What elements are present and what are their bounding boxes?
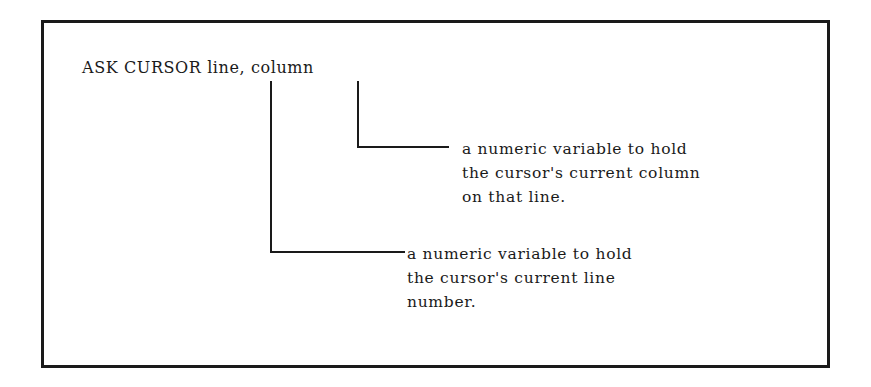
syntax-statement: ASK CURSOR line, column bbox=[82, 58, 314, 78]
line-annotation-line-1: a numeric variable to hold bbox=[407, 242, 632, 266]
column-annotation-line-2: the cursor's current column bbox=[462, 161, 701, 185]
line-annotation-line-2: the cursor's current line bbox=[407, 266, 632, 290]
column-connector-horizontal bbox=[357, 146, 449, 148]
column-annotation-line-3: on that line. bbox=[462, 185, 701, 209]
column-annotation: a numeric variable to hold the cursor's … bbox=[462, 137, 701, 209]
line-connector-vertical bbox=[270, 81, 272, 253]
column-connector-vertical bbox=[357, 81, 359, 148]
line-connector-horizontal bbox=[270, 251, 405, 253]
line-annotation: a numeric variable to hold the cursor's … bbox=[407, 242, 632, 314]
line-annotation-line-3: number. bbox=[407, 290, 632, 314]
column-annotation-line-1: a numeric variable to hold bbox=[462, 137, 701, 161]
